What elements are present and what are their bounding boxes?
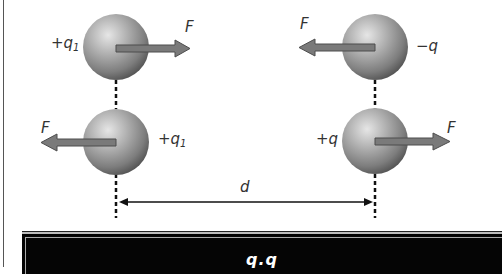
force-label-top-right: F [300, 17, 309, 32]
force-label-bottom-left: F [41, 121, 50, 136]
charge-symbol: +q [158, 130, 180, 148]
charge-subscript: 1 [180, 138, 186, 149]
distance-arrow [119, 198, 373, 206]
charge-symbol: +q [51, 34, 73, 52]
charge-label-bottom-left: +q1 [158, 132, 186, 149]
force-label-top-left: F [185, 20, 194, 35]
charge-label-top-left: +q1 [51, 36, 79, 53]
charge-label-bottom-right: +q [316, 132, 338, 147]
formula-box: q.q [22, 232, 502, 274]
charge-subscript: 1 [73, 42, 79, 53]
distance-label: d [240, 180, 250, 195]
charge-label-top-right: −q [416, 39, 438, 54]
formula-text: q.q [22, 250, 502, 269]
force-label-bottom-right: F [447, 121, 456, 136]
